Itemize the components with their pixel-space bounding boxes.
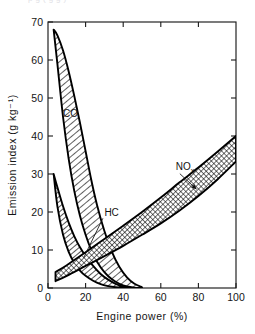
x-axis-title: Engine power (%): [96, 310, 187, 322]
y-tick-label: 40: [31, 130, 43, 142]
y-tick-label: 70: [31, 16, 43, 28]
top-caption-fragment: p g ( g g ): [28, 0, 248, 4]
y-tick-label: 30: [31, 168, 43, 180]
y-tick-label: 10: [31, 244, 43, 256]
x-tick-label: 60: [155, 291, 167, 303]
x-axis-tick-labels: 0 20 40 60 80 100: [45, 291, 245, 303]
x-tick-label: 20: [80, 291, 92, 303]
series-label-hc: HC: [104, 207, 118, 218]
emission-index-figure: p g ( g g ): [0, 0, 255, 334]
x-tick-label: 100: [227, 291, 245, 303]
y-axis-tick-labels: 0 10 20 30 40 50 60 70: [31, 16, 43, 294]
y-tick-label: 0: [37, 282, 43, 294]
emission-index-chart: 0 10 20 30 40 50 60 70 0 20 40: [0, 0, 255, 334]
series-label-nox-main: NO: [176, 161, 191, 172]
x-tick-label: 80: [193, 291, 205, 303]
series-label-nox: NOx: [176, 161, 195, 175]
series-label-nox-subscript: x: [191, 166, 195, 175]
x-tick-label: 40: [117, 291, 129, 303]
y-tick-label: 50: [31, 92, 43, 104]
series-label-co: CO: [63, 108, 78, 119]
x-tick-label: 0: [45, 291, 51, 303]
y-tick-label: 20: [31, 206, 43, 218]
y-tick-label: 60: [31, 54, 43, 66]
data-bands: [54, 30, 236, 288]
y-axis-title: Emission index (g kg⁻¹): [6, 94, 18, 215]
